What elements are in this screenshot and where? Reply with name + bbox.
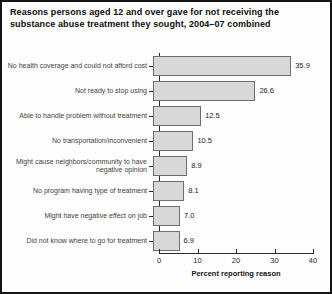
bar-row: Not ready to stop using26.6 [2,78,330,103]
x-axis-tick-label: 20 [232,256,240,265]
bar-track: 10.5 [153,131,330,151]
bar-track: 26.6 [153,81,330,101]
bar-track: 7.0 [153,206,330,226]
bar [153,156,187,176]
x-axis-tick [275,249,276,254]
bar-row: Able to handle problem without treatment… [2,103,330,128]
x-axis-tick-label: 30 [270,256,278,265]
category-label: No health coverage and could not afford … [2,62,153,70]
bar [153,81,255,101]
category-label: No transportation/inconvenient [2,137,153,145]
bar [153,231,180,251]
category-label: No program having type of treatment [2,187,153,195]
bar-row: Might have negative effect on job7.0 [2,203,330,228]
bar-chart: No health coverage and could not afford … [2,53,330,278]
value-label: 8.9 [191,161,201,170]
bar-track: 35.9 [153,56,330,76]
bar-track: 6.9 [153,231,330,251]
value-label: 8.1 [188,186,198,195]
bar [153,181,184,201]
x-axis-tick-label: 10 [193,256,201,265]
value-label: 12.5 [205,111,220,120]
x-axis-tick [236,249,237,254]
bar [153,206,180,226]
x-axis: 010203040 [159,253,313,266]
figure: Reasons persons aged 12 and over gave fo… [0,0,332,294]
bar-row: Might cause neighbors/community to have … [2,153,330,178]
bar-row: No program having type of treatment8.1 [2,178,330,203]
bar-row: Did not know where to go for treatment6.… [2,228,330,253]
x-axis-tick [159,249,160,254]
bar [153,56,291,76]
x-axis-tick-label: 0 [157,256,161,265]
bar-track: 12.5 [153,106,330,126]
bar-track: 8.1 [153,181,330,201]
value-label: 35.9 [295,61,310,70]
bar [153,106,201,126]
x-axis-tick [313,249,314,254]
x-axis-title: Percent reporting reason [159,266,313,278]
x-axis-tick-label: 40 [309,256,317,265]
bar [153,131,193,151]
value-label: 10.5 [197,136,212,145]
value-label: 6.9 [184,236,194,245]
category-label: Might cause neighbors/community to have … [2,158,153,174]
x-axis-tick [198,249,199,254]
category-label: Not ready to stop using [2,87,153,95]
bar-track: 8.9 [153,156,330,176]
value-label: 26.6 [259,86,274,95]
bar-row: No transportation/inconvenient10.5 [2,128,330,153]
bar-row: No health coverage and could not afford … [2,53,330,78]
bar-rows: No health coverage and could not afford … [2,53,330,253]
category-label: Able to handle problem without treatment [2,112,153,120]
category-label: Might have negative effect on job [2,212,153,220]
value-label: 7.0 [184,211,194,220]
category-label: Did not know where to go for treatment [2,237,153,245]
chart-title: Reasons persons aged 12 and over gave fo… [2,2,314,30]
